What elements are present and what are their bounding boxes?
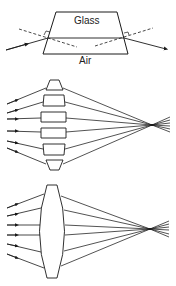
converging-rays: [63, 88, 170, 164]
lens-converging-rays: [61, 196, 169, 266]
lens-incoming-rays: [7, 194, 44, 268]
optics-diagram: Glass Air: [0, 0, 176, 286]
exit-ray: [124, 38, 166, 49]
incident-ray-arrow: [6, 44, 27, 50]
air-label: Air: [79, 55, 92, 66]
focal-point-2: [149, 228, 151, 230]
glass-label: Glass: [74, 15, 100, 26]
prism-segment-6: [46, 160, 63, 170]
prism-segment-3: [41, 112, 66, 122]
prism-segment-2: [43, 95, 65, 106]
focal-point-1: [151, 124, 153, 126]
convex-lens-panel: [7, 185, 169, 278]
prism-refraction-panel: Glass Air: [6, 12, 166, 66]
prism-segment-5: [43, 144, 65, 155]
prism-segment-4: [41, 128, 66, 138]
right-right-angle-marker: [124, 32, 129, 35]
incoming-rays: [7, 88, 46, 164]
convex-lens: [40, 185, 65, 278]
stacked-prisms-panel: [7, 80, 170, 170]
prism-segment-1: [46, 80, 63, 90]
